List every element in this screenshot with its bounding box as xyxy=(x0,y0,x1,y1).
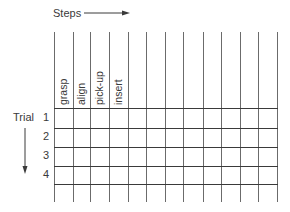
grid-row-line xyxy=(54,147,278,148)
grid-column-line xyxy=(165,32,166,202)
grid-row-line xyxy=(54,108,278,109)
trial-number-1: 1 xyxy=(43,111,49,123)
grid-column-line xyxy=(128,32,129,202)
grid-column-line xyxy=(54,32,55,202)
steps-arrow-icon xyxy=(84,9,130,17)
grid-column-line xyxy=(240,32,241,202)
trial-number-2: 2 xyxy=(43,130,49,142)
step-header-insert: insert xyxy=(112,79,124,105)
trial-number-4: 4 xyxy=(43,168,49,180)
grid-column-line xyxy=(258,32,259,202)
grid-column-line xyxy=(183,32,184,202)
grid-row-line xyxy=(54,128,278,129)
grid-column-line xyxy=(277,32,278,202)
grid-column-line xyxy=(203,32,204,202)
trial-arrow-icon xyxy=(21,128,29,174)
grid-column-line xyxy=(146,32,147,202)
grid-column-line xyxy=(221,32,222,202)
grid-column-line xyxy=(109,32,110,202)
step-header-pick-up: pick-up xyxy=(93,71,105,105)
grid-column-line xyxy=(73,32,74,202)
step-header-align: align xyxy=(75,83,87,105)
trial-number-3: 3 xyxy=(43,149,49,161)
steps-label: Steps xyxy=(53,7,81,19)
step-header-grasp: grasp xyxy=(57,79,69,105)
trial-label: Trial xyxy=(13,111,34,123)
grid-row-line xyxy=(54,184,278,185)
grid-column-line xyxy=(90,32,91,202)
grid-row-line xyxy=(54,166,278,167)
